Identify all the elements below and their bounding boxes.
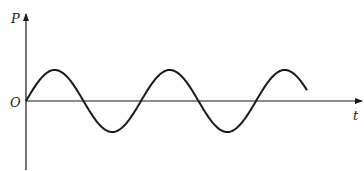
sine-graph: P t O bbox=[0, 0, 364, 171]
origin-label: O bbox=[10, 95, 21, 110]
x-axis-label: t bbox=[353, 108, 359, 123]
y-axis-label: P bbox=[10, 11, 20, 26]
